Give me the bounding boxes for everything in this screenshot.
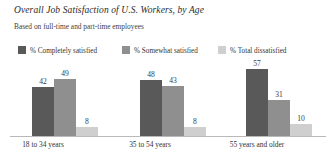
bar-item[interactable]: 42 bbox=[32, 55, 54, 136]
bar-rect[interactable] bbox=[246, 69, 268, 136]
bar-rect[interactable] bbox=[290, 124, 312, 136]
legend-swatch-icon bbox=[218, 46, 226, 54]
legend-label: % Somewhat satisfied bbox=[134, 47, 198, 55]
bar-value-label: 57 bbox=[246, 59, 268, 68]
legend-label: % Completely satisfied bbox=[30, 47, 97, 55]
legend-item-somewhat-satisfied[interactable]: % Somewhat satisfied bbox=[122, 39, 198, 50]
legend-swatch-icon bbox=[18, 46, 26, 54]
bar-item[interactable]: 8 bbox=[184, 55, 206, 136]
bar-rect[interactable] bbox=[76, 127, 98, 136]
category-axis-labels: 18 to 34 years 35 to 54 years 55 years a… bbox=[0, 140, 336, 152]
bar-rect[interactable] bbox=[184, 127, 206, 136]
bar-value-label: 31 bbox=[268, 90, 290, 99]
bar-rect[interactable] bbox=[162, 86, 184, 136]
bar-item[interactable]: 31 bbox=[268, 55, 290, 136]
legend-item-completely-satisfied[interactable]: % Completely satisfied bbox=[18, 39, 97, 50]
plot-area: 42 49 8 48 43 8 bbox=[0, 55, 336, 137]
legend-swatch-icon bbox=[122, 46, 130, 54]
legend-label: % Total dissatisfied bbox=[230, 47, 286, 55]
bar-item[interactable]: 57 bbox=[246, 55, 268, 136]
legend-item-total-dissatisfied[interactable]: % Total dissatisfied bbox=[218, 39, 286, 50]
bar-rect[interactable] bbox=[268, 100, 290, 136]
bar-value-label: 10 bbox=[290, 114, 312, 123]
bar-value-label: 48 bbox=[140, 70, 162, 79]
bar-rect[interactable] bbox=[32, 87, 54, 136]
bar-item[interactable]: 48 bbox=[140, 55, 162, 136]
bar-value-label: 42 bbox=[32, 77, 54, 86]
chart-container: Overall Job Satisfaction of U.S. Workers… bbox=[0, 0, 336, 155]
bar-value-label: 49 bbox=[54, 69, 76, 78]
chart-title: Overall Job Satisfaction of U.S. Workers… bbox=[14, 5, 204, 16]
bar-item[interactable]: 8 bbox=[76, 55, 98, 136]
bar-item[interactable]: 43 bbox=[162, 55, 184, 136]
category-label: 55 years and older bbox=[202, 140, 312, 149]
bar-item[interactable]: 49 bbox=[54, 55, 76, 136]
bar-value-label: 8 bbox=[184, 117, 206, 126]
x-axis-baseline bbox=[10, 136, 326, 137]
category-label: 18 to 34 years bbox=[0, 140, 98, 149]
bar-value-label: 8 bbox=[76, 117, 98, 126]
bar-rect[interactable] bbox=[140, 80, 162, 136]
chart-subtitle: Based on full-time and part-time employe… bbox=[14, 22, 144, 31]
bar-item[interactable]: 10 bbox=[290, 55, 312, 136]
category-label: 35 to 54 years bbox=[95, 140, 205, 149]
bar-rect[interactable] bbox=[54, 79, 76, 136]
bar-value-label: 43 bbox=[162, 76, 184, 85]
